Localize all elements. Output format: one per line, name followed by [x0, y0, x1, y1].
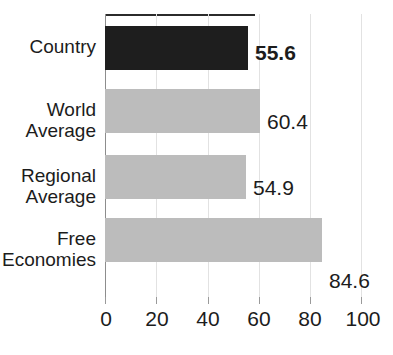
- tick-label-80: 80: [298, 307, 321, 331]
- value-label-world-average: 60.4: [267, 111, 308, 132]
- category-label-country: Country: [0, 36, 96, 57]
- category-label-line: Country: [0, 36, 96, 57]
- category-label-line: Regional: [0, 165, 96, 186]
- category-label-regional-average: Regional Average: [0, 165, 96, 207]
- tick-mark-80: [310, 297, 311, 304]
- category-label-line: Average: [0, 120, 96, 141]
- tick-label-0: 0: [100, 307, 112, 331]
- category-label-world-average: World Average: [0, 99, 96, 141]
- value-label-country: 55.6: [255, 42, 296, 63]
- value-label-free-economies: 84.6: [329, 270, 370, 291]
- bar-country[interactable]: [105, 26, 248, 70]
- value-label-regional-average: 54.9: [253, 177, 294, 198]
- tick-label-20: 20: [145, 307, 168, 331]
- bar-regional-average[interactable]: [105, 155, 246, 199]
- category-label-line: World: [0, 99, 96, 120]
- category-label-line: Economies: [0, 249, 96, 270]
- tick-mark-100: [361, 297, 362, 304]
- tick-mark-40: [208, 297, 209, 304]
- tick-label-60: 60: [247, 307, 270, 331]
- gridline-100: [361, 14, 362, 297]
- tick-label-100: 100: [345, 307, 380, 331]
- tick-label-40: 40: [196, 307, 219, 331]
- chart-title: Overall Score: [105, 0, 335, 5]
- tick-mark-60: [259, 297, 260, 304]
- bar-chart: Overall Score Country World Average Regi…: [0, 0, 393, 355]
- tick-mark-20: [156, 297, 157, 304]
- bar-free-economies[interactable]: [105, 218, 322, 262]
- plot-area: [105, 14, 362, 297]
- category-label-line: Free: [0, 228, 96, 249]
- bar-world-average[interactable]: [105, 89, 260, 133]
- category-label-free-economies: Free Economies: [0, 228, 96, 270]
- tick-mark-0: [105, 297, 106, 304]
- category-label-line: Average: [0, 186, 96, 207]
